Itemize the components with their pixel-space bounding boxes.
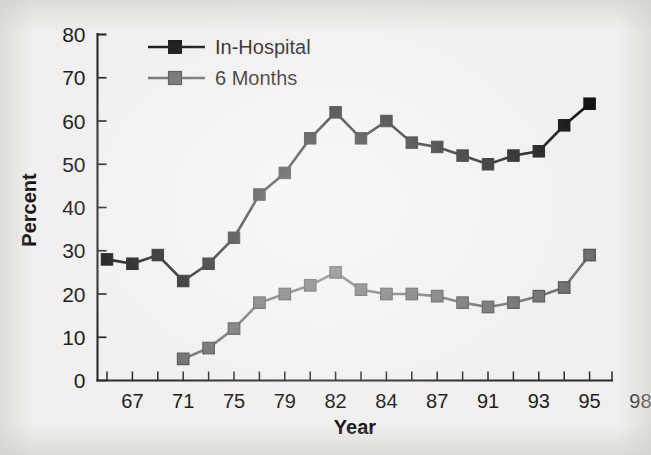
data-point-in-hospital	[508, 150, 520, 162]
y-tick-group	[98, 35, 107, 381]
legend-marker-in-hospital	[169, 41, 182, 54]
y-tick-label: 60	[62, 110, 85, 133]
data-point-6-months	[279, 288, 291, 300]
x-tick-label: 91	[477, 390, 499, 412]
data-point-in-hospital	[584, 98, 596, 110]
chart-legend: In-Hospital 6 Months	[148, 36, 311, 89]
x-tick-label: 84	[375, 390, 397, 412]
data-point-in-hospital	[330, 107, 342, 119]
data-point-in-hospital	[558, 120, 570, 132]
x-tick-label: 95	[578, 390, 600, 412]
data-point-in-hospital	[279, 167, 291, 179]
data-point-in-hospital	[127, 258, 138, 270]
series-line-in-hospital	[107, 104, 590, 281]
data-point-in-hospital	[355, 133, 367, 145]
y-tick-label: 40	[62, 196, 85, 219]
line-chart-canvas: 01020304050607080 6771757982848791939598…	[0, 0, 651, 455]
chart-figure: 01020304050607080 6771757982848791939598…	[0, 0, 651, 455]
data-point-6-months	[355, 284, 367, 296]
data-point-6-months	[431, 290, 443, 302]
x-tick-label: 75	[223, 390, 245, 412]
data-point-6-months	[228, 323, 240, 335]
legend-entry-in-hospital: In-Hospital	[148, 36, 311, 58]
x-axis-title: Year	[334, 416, 376, 438]
data-point-6-months	[177, 353, 189, 365]
data-point-6-months	[558, 282, 570, 294]
axis-group	[98, 34, 613, 381]
data-point-in-hospital	[228, 232, 240, 244]
x-tick-label: 98	[629, 390, 651, 412]
data-point-in-hospital	[101, 254, 113, 266]
y-tick-label: 10	[62, 326, 85, 349]
x-tick-group	[107, 372, 612, 381]
x-tick-label: 87	[426, 390, 448, 412]
series-in-hospital	[101, 98, 595, 287]
data-point-in-hospital	[457, 150, 469, 162]
data-point-in-hospital	[254, 189, 266, 201]
series-6-months	[177, 249, 595, 364]
data-point-in-hospital	[203, 258, 215, 270]
data-point-6-months	[330, 267, 342, 279]
data-point-in-hospital	[431, 141, 443, 153]
legend-marker-6-months	[169, 72, 182, 85]
data-point-in-hospital	[533, 146, 545, 158]
legend-entry-6-months: 6 Months	[148, 67, 297, 89]
x-tick-label: 93	[528, 390, 550, 412]
legend-label-in-hospital: In-Hospital	[215, 36, 311, 58]
y-tick-label: 30	[62, 239, 85, 262]
data-point-6-months	[304, 280, 316, 292]
x-tick-label: 79	[274, 390, 296, 412]
data-point-6-months	[584, 249, 596, 261]
x-tick-label: 67	[121, 390, 143, 412]
x-tick-label: 82	[324, 390, 346, 412]
data-point-6-months	[533, 290, 545, 302]
data-point-6-months	[254, 297, 266, 309]
y-tick-label: 20	[62, 283, 85, 306]
y-tick-label: 50	[62, 153, 85, 176]
x-tick-label-group: 6771757982848791939598	[121, 390, 651, 412]
y-tick-label: 70	[62, 66, 85, 89]
data-point-6-months	[406, 288, 418, 300]
data-point-in-hospital	[482, 159, 494, 171]
data-point-in-hospital	[152, 249, 164, 261]
data-point-in-hospital	[406, 137, 418, 149]
legend-label-6-months: 6 Months	[215, 67, 297, 89]
data-point-6-months	[482, 301, 494, 313]
data-point-in-hospital	[177, 275, 189, 287]
series-markers-6-months	[177, 249, 595, 364]
y-axis-title: Percent	[18, 173, 40, 247]
y-tick-label: 0	[74, 369, 86, 392]
data-point-6-months	[203, 342, 215, 354]
data-point-6-months	[508, 297, 520, 309]
y-tick-label-group: 01020304050607080	[62, 23, 85, 392]
data-point-in-hospital	[304, 133, 316, 145]
data-point-6-months	[457, 297, 469, 309]
data-point-6-months	[381, 288, 393, 300]
series-line-6-months	[183, 255, 589, 359]
data-point-in-hospital	[381, 115, 393, 127]
x-tick-label: 71	[172, 390, 194, 412]
y-tick-label: 80	[62, 23, 85, 46]
